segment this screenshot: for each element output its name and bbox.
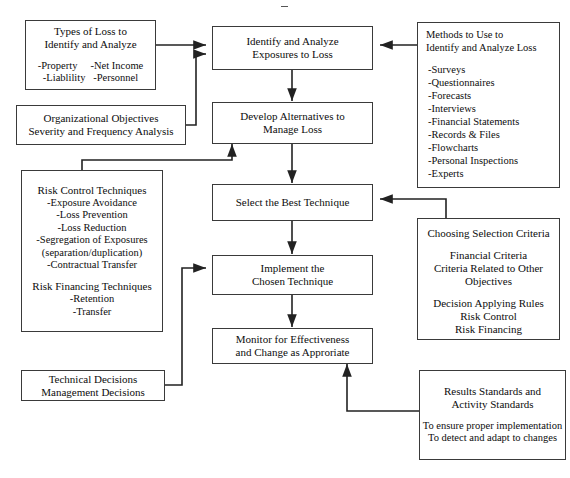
spacer xyxy=(22,271,162,280)
step-monitor-line-2: and Change as Approriate xyxy=(213,346,372,359)
methods-heading-line-1: Methods to Use to xyxy=(418,29,559,42)
risk-control-item-2: -Loss Prevention xyxy=(22,209,162,221)
connector-objectives-to-identify xyxy=(186,54,206,125)
step-implement-line-1: Implement the xyxy=(213,262,372,275)
step-implement-chosen-technique[interactable]: Implement the Chosen Technique xyxy=(212,255,373,295)
step-identify-line-2: Exposures to Loss xyxy=(213,48,372,61)
standards-detail-1: To ensure proper implementation xyxy=(420,420,565,432)
organizational-objectives-line-2: Severity and Frequency Analysis xyxy=(17,125,185,138)
selection-criteria-group-one-1: Financial Criteria xyxy=(418,249,559,262)
connector-standards-to-monitor xyxy=(347,364,419,411)
standards-heading-line-2: Activity Standards xyxy=(420,398,565,411)
step-implement-line-2: Chosen Technique xyxy=(213,275,372,288)
risk-financing-item-1: -Retention xyxy=(22,293,162,305)
selection-criteria-group-two-3: Risk Financing xyxy=(418,323,559,336)
box-selection-criteria[interactable]: Choosing Selection Criteria Financial Cr… xyxy=(417,218,560,340)
connector-criteria-to-select xyxy=(380,199,446,218)
risk-control-item-3: -Loss Reduction xyxy=(22,222,162,234)
methods-item-4: -Interviews xyxy=(418,102,559,115)
types-of-loss-heading-1: Types of Loss to xyxy=(26,25,155,38)
box-methods-to-use[interactable]: Methods to Use to Identify and Analyze L… xyxy=(417,22,560,188)
methods-list: -Surveys -Questionnaires -Forecasts -Int… xyxy=(418,63,559,180)
box-organizational-objectives[interactable]: Organizational Objectives Severity and F… xyxy=(16,105,186,145)
methods-item-8: -Personal Inspections xyxy=(418,154,559,167)
types-of-loss-heading-2: Identify and Analyze xyxy=(26,38,155,51)
decisions-line-2: Management Decisions xyxy=(22,386,164,399)
box-risk-techniques[interactable]: Risk Control Techniques -Exposure Avoida… xyxy=(21,170,163,332)
methods-heading-line-2: Identify and Analyze Loss xyxy=(418,42,559,55)
connector-decisions-to-implement xyxy=(165,268,206,385)
types-of-loss-item-2: -Liablility -Personnel xyxy=(26,72,155,84)
organizational-objectives-line-1: Organizational Objectives xyxy=(17,112,185,125)
methods-item-3: -Forecasts xyxy=(418,89,559,102)
selection-criteria-heading: Choosing Selection Criteria xyxy=(418,227,559,240)
risk-financing-item-2: -Transfer xyxy=(22,306,162,318)
risk-financing-heading: Risk Financing Techniques xyxy=(22,280,162,293)
types-of-loss-item-1: -Property -Net Income xyxy=(26,60,155,72)
methods-item-9: -Experts xyxy=(418,167,559,180)
methods-item-1: -Surveys xyxy=(418,63,559,76)
standards-heading-line-1: Results Standards and xyxy=(420,385,565,398)
methods-item-2: -Questionnaires xyxy=(418,76,559,89)
methods-item-6: -Records & Files xyxy=(418,128,559,141)
selection-criteria-group-one-2: Criteria Related to Other xyxy=(418,262,559,275)
risk-control-item-1: -Exposure Avoidance xyxy=(22,197,162,209)
methods-item-5: -Financial Statements xyxy=(418,115,559,128)
risk-control-item-4: -Segregation of Exposures xyxy=(22,234,162,246)
step-monitor-effectiveness[interactable]: Monitor for Effectiveness and Change as … xyxy=(212,328,373,364)
flowchart-canvas: Types of Loss to Identify and Analyze -P… xyxy=(0,0,570,478)
spacer xyxy=(420,411,565,420)
selection-criteria-group-one-3: Objectives xyxy=(418,275,559,288)
spacer xyxy=(418,288,559,297)
risk-control-heading: Risk Control Techniques xyxy=(22,184,162,197)
step-select-best-technique[interactable]: Select the Best Technique xyxy=(212,184,373,221)
methods-item-7: -Flowcharts xyxy=(418,141,559,154)
connector-risk-to-develop xyxy=(82,144,232,170)
spacer xyxy=(418,240,559,249)
standards-detail-2: To detect and adapt to changes xyxy=(420,432,565,444)
risk-control-item-6: -Contractual Transfer xyxy=(22,259,162,271)
spacer xyxy=(26,51,155,60)
selection-criteria-group-two-1: Decision Applying Rules xyxy=(418,297,559,310)
step-monitor-line-1: Monitor for Effectiveness xyxy=(213,333,372,346)
methods-heading: Methods to Use to Identify and Analyze L… xyxy=(418,29,559,54)
step-identify-and-analyze[interactable]: Identify and Analyze Exposures to Loss xyxy=(212,26,373,70)
step-identify-line-1: Identify and Analyze xyxy=(213,35,372,48)
selection-criteria-group-two-2: Risk Control xyxy=(418,310,559,323)
box-types-of-loss[interactable]: Types of Loss to Identify and Analyze -P… xyxy=(25,20,156,90)
decisions-line-1: Technical Decisions xyxy=(22,373,164,386)
top-tick-mark xyxy=(281,6,288,7)
step-select-line-1: Select the Best Technique xyxy=(213,196,372,209)
box-standards[interactable]: Results Standards and Activity Standards… xyxy=(419,370,566,460)
spacer xyxy=(418,54,559,63)
risk-control-item-5: (separation/duplication) xyxy=(22,247,162,259)
step-develop-line-2: Manage Loss xyxy=(213,123,372,136)
box-decisions[interactable]: Technical Decisions Management Decisions xyxy=(21,370,165,401)
step-develop-alternatives[interactable]: Develop Alternatives to Manage Loss xyxy=(212,102,373,144)
step-develop-line-1: Develop Alternatives to xyxy=(213,110,372,123)
